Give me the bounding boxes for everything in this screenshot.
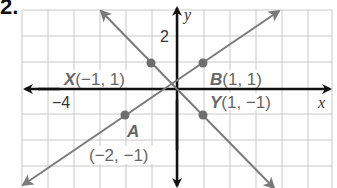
tick-label-2: 2 bbox=[160, 28, 169, 45]
point-b bbox=[199, 59, 208, 68]
point-y bbox=[199, 111, 208, 120]
label-a-name: A bbox=[126, 122, 139, 141]
tick-label-neg4: −4 bbox=[52, 94, 70, 111]
label-a-coords: (−2, −1) bbox=[89, 146, 149, 165]
label-x: X(−1, 1) bbox=[63, 70, 125, 89]
point-x bbox=[147, 59, 156, 68]
label-y: Y(1, −1) bbox=[210, 93, 271, 112]
coordinate-graph: X(−1, 1) B(1, 1) Y(1, −1) A (−2, −1) −4 … bbox=[0, 0, 337, 188]
point-a bbox=[121, 111, 130, 120]
line-ab-lower bbox=[23, 85, 170, 185]
label-b: B(1, 1) bbox=[210, 70, 262, 89]
axis-label-x: x bbox=[317, 94, 325, 111]
axis-label-y: y bbox=[182, 6, 192, 24]
